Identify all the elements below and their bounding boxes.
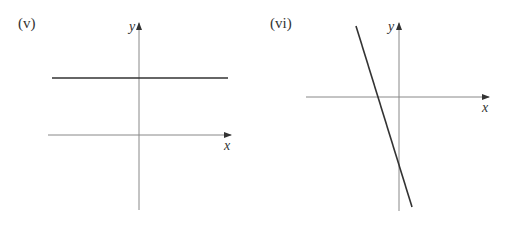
x-axis-label: x (481, 100, 489, 115)
y-axis-label: y (127, 19, 136, 34)
graph-line (356, 26, 412, 207)
panel-label: (vi) (270, 15, 292, 32)
panel-label: (v) (18, 15, 36, 32)
y-axis-label: y (386, 19, 395, 34)
x-axis-label: x (223, 138, 231, 153)
graphs-figure: (v) y x (vi) y x (0, 0, 506, 231)
panel-vi: (vi) y x (270, 15, 489, 211)
panel-v: (v) y x (18, 15, 231, 210)
